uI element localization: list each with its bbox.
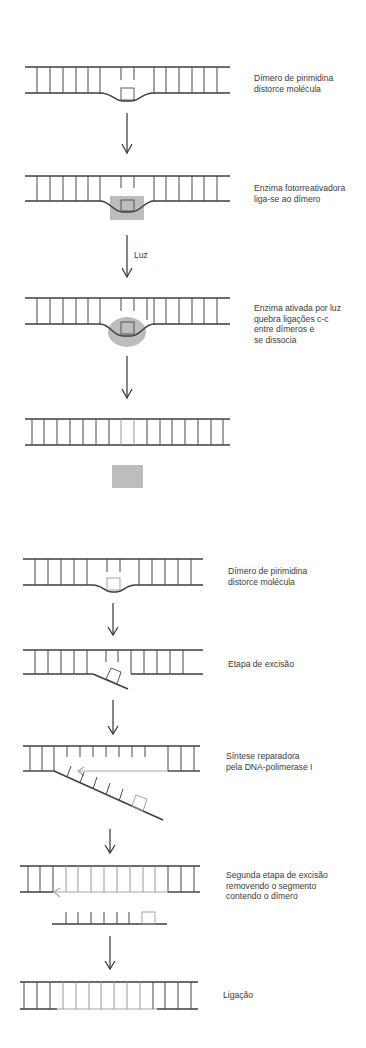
- label-step2-enzyme-binds: Enzima fotorreativadora liga-se ao dímer…: [254, 183, 345, 204]
- pyrimidine-dimer: [121, 88, 134, 100]
- label-step1-dimer: Dímero de pirimidina distorce molécula: [254, 73, 333, 94]
- dna-duplex-dimer-distorted: [25, 67, 230, 101]
- dna-duplex-dimer-distorted-2: [23, 559, 203, 592]
- dna-duplex-repair-synthesis: [23, 746, 200, 820]
- arrow-down-icon: [108, 603, 118, 635]
- arrow-down-icon: [122, 113, 132, 153]
- pyrimidine-dimer: [142, 912, 155, 924]
- label-step3-light-activated: Enzima ativada por luz quebra ligações c…: [254, 303, 341, 345]
- arrow-down-icon: [122, 235, 132, 277]
- label-excision-step3: Síntese reparadora pela DNA-polimerase I: [226, 751, 312, 772]
- label-excision-step4: Segunda etapa de excisão removendo o seg…: [226, 870, 328, 902]
- dna-duplex-ligated: [20, 982, 198, 1009]
- dna-duplex-second-excision: [20, 866, 200, 924]
- label-excision-step5: Ligação: [223, 990, 253, 1001]
- dna-duplex-repaired: [25, 419, 230, 445]
- label-arrow-luz: Luz: [134, 250, 148, 261]
- dna-duplex-enzyme-bound: [25, 176, 230, 220]
- dna-duplex-excision: [23, 650, 203, 689]
- pyrimidine-dimer: [132, 795, 147, 811]
- arrow-down-icon: [105, 829, 115, 853]
- label-excision-step2: Etapa de excisão: [228, 659, 294, 670]
- label-excision-step1: Dímero de pirimidina distorce molécula: [228, 566, 307, 587]
- pyrimidine-dimer: [107, 578, 120, 590]
- pyrimidine-dimer: [106, 668, 121, 684]
- arrow-down-icon: [105, 936, 115, 969]
- excised-fragment: [52, 912, 167, 924]
- released-enzyme: [112, 465, 143, 488]
- arrow-down-icon: [108, 700, 118, 734]
- arrow-down-icon: [122, 356, 132, 398]
- dna-duplex-light-activated: [25, 298, 230, 347]
